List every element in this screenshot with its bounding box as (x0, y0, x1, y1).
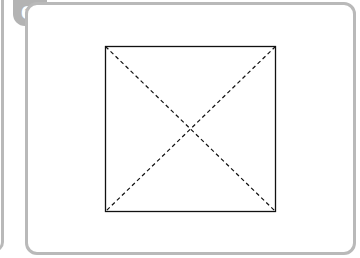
square-with-diagonals-figure (0, 0, 360, 258)
